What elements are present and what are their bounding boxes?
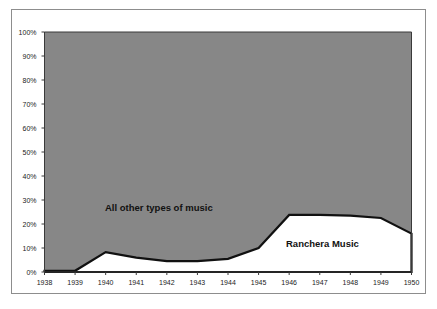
x-tick-label: 1938	[30, 279, 60, 286]
x-tick-label: 1944	[213, 279, 243, 286]
area-all-other-types-of-music	[45, 32, 412, 271]
x-tick-label: 1939	[60, 279, 90, 286]
series-label-ranchera-music: Ranchera Music	[286, 239, 359, 249]
x-tick-label: 1941	[121, 279, 151, 286]
y-tick-label: 10%	[11, 245, 37, 252]
x-tick-label: 1948	[335, 279, 365, 286]
x-tick-label: 1942	[152, 279, 182, 286]
area-chart-plot	[0, 0, 437, 309]
y-tick-label: 0%	[11, 269, 37, 276]
x-tick-label: 1946	[274, 279, 304, 286]
series-label-all-other-types-of-music: All other types of music	[105, 203, 213, 213]
y-tick-label: 60%	[11, 125, 37, 132]
x-tick-label: 1940	[91, 279, 121, 286]
y-tick-label: 50%	[11, 149, 37, 156]
x-tick-label: 1947	[305, 279, 335, 286]
chart-figure: 100%90%80%70%60%50%40%30%20%10%0% 193819…	[0, 0, 437, 309]
x-tick-label: 1950	[397, 279, 427, 286]
y-tick-label: 90%	[11, 53, 37, 60]
y-tick-label: 20%	[11, 221, 37, 228]
y-tick-label: 100%	[11, 29, 37, 36]
y-tick-label: 40%	[11, 173, 37, 180]
y-tick-label: 70%	[11, 101, 37, 108]
x-tick-label: 1945	[244, 279, 274, 286]
y-tick-label: 30%	[11, 197, 37, 204]
x-tick-label: 1949	[366, 279, 396, 286]
y-tick-label: 80%	[11, 77, 37, 84]
x-tick-label: 1943	[182, 279, 212, 286]
